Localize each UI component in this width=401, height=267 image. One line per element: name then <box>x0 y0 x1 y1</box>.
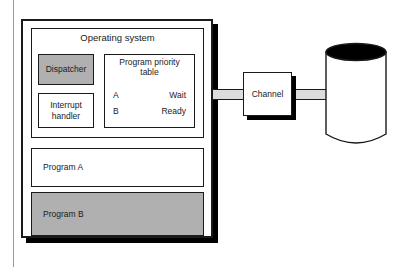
priority-status: Ready <box>161 106 186 116</box>
memory-to-channel-connector <box>213 89 247 100</box>
program-b-label: Program B <box>31 192 204 236</box>
program-a-label: Program A <box>31 148 204 187</box>
disk-drive-icon <box>325 42 387 152</box>
program-priority-table-title: Program priority table <box>104 57 195 79</box>
priority-status: Wait <box>169 90 186 100</box>
dispatcher-label: Dispatcher <box>38 54 94 85</box>
diagram-canvas: Operating system Dispatcher Interrupt ha… <box>0 0 401 267</box>
priority-program: A <box>113 90 119 100</box>
operating-system-title: Operating system <box>31 30 204 46</box>
table-row: B Ready <box>104 104 195 117</box>
priority-program: B <box>113 106 119 116</box>
interrupt-handler-label: Interrupt handler <box>38 93 94 128</box>
channel-label: Channel <box>243 72 292 116</box>
table-row: A Wait <box>104 88 195 101</box>
page-rule <box>13 0 14 267</box>
